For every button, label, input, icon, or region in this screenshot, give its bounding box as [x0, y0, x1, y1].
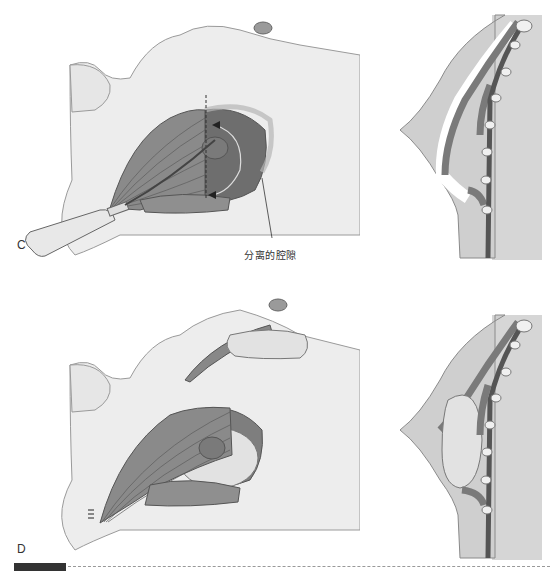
panel-d-body-drawing — [0, 280, 360, 555]
panel-label-d: D — [17, 542, 26, 556]
panel-c-body-illustration: C 分离的腔隙 — [0, 0, 360, 260]
panel-d-cross-section — [400, 300, 554, 560]
panel-d-body-illustration: D — [0, 280, 360, 555]
footer-dark-bar — [14, 563, 66, 571]
panel-d-sagittal-drawing — [400, 300, 554, 560]
callout-dissected-pocket: 分离的腔隙 — [244, 247, 297, 262]
panel-c-sagittal-drawing — [400, 0, 554, 260]
panel-c-cross-section — [400, 0, 554, 260]
footer-dashed-rule — [68, 566, 550, 567]
panel-c-body-drawing — [0, 0, 360, 260]
panel-label-c: C — [17, 238, 26, 252]
